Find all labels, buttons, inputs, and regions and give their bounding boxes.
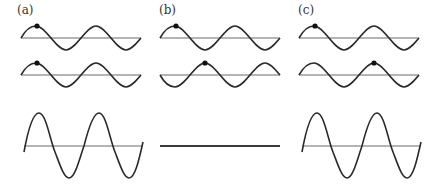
panel-label-a: (a) [17,3,34,17]
phase-marker-dot [202,60,207,65]
phase-marker-dot [312,23,317,28]
phase-marker-dot [34,23,39,28]
panel-label-b: (b) [159,3,176,17]
phase-marker-dot [34,60,39,65]
phase-marker-dot [371,60,376,65]
interference-diagram: (a) (b) (c) [0,0,436,193]
panel-label-c: (c) [298,3,314,17]
panel-b: (b) [159,3,280,146]
panel-c: (c) [298,3,421,178]
panel-a: (a) [17,3,143,178]
phase-marker-dot [173,23,178,28]
